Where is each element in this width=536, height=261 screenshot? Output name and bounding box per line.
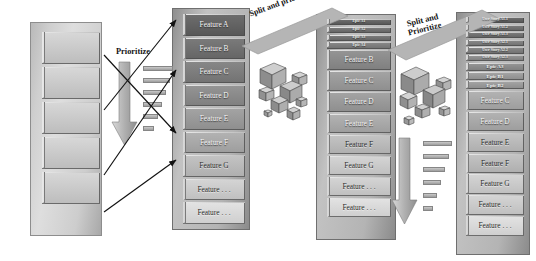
block-front-face: [42, 102, 100, 134]
backlog-item-unlabeled[interactable]: [42, 67, 100, 99]
backlog-item[interactable]: Feature . . .: [466, 216, 524, 236]
backlog-item-label: User Story A1.1: [482, 18, 508, 22]
block-left-edge: [466, 72, 469, 80]
priority-bar: [423, 193, 437, 198]
block-top-face: [466, 133, 524, 134]
block-left-edge: [466, 112, 469, 132]
backlog-item-label: Feature G: [344, 162, 373, 169]
backlog-item[interactable]: Feature C: [183, 61, 245, 83]
block-left-edge: [327, 71, 330, 91]
block-left-edge: [466, 32, 469, 38]
stack-epic-split-backlog: Epic A1Epic A2Epic A3Epic A4Feature BFea…: [316, 14, 396, 240]
block-top-face: [183, 108, 245, 109]
block-top-face: [183, 179, 245, 180]
backlog-item[interactable]: Feature F: [183, 132, 245, 154]
stack-blocks: Feature AFeature BFeature CFeature DFeat…: [172, 8, 250, 230]
backlog-item-label: Feature A: [200, 21, 229, 28]
block-left-edge: [466, 174, 469, 194]
backlog-item[interactable]: Feature . . .: [183, 202, 245, 224]
block-top-face: [466, 112, 524, 113]
block-left-edge: [327, 177, 330, 197]
backlog-item-label: Feature E: [345, 120, 374, 127]
backlog-item[interactable]: Feature . . .: [466, 195, 524, 215]
block-left-edge: [327, 156, 330, 176]
backlog-item[interactable]: Feature E: [327, 114, 391, 134]
backlog-item[interactable]: Epic B1: [466, 72, 524, 80]
block-left-edge: [466, 133, 469, 153]
block-top-face: [327, 177, 391, 178]
backlog-item-label: User Story A2.3: [482, 56, 508, 60]
backlog-item[interactable]: Feature G: [466, 174, 524, 194]
block-left-edge: [466, 17, 469, 23]
block-left-edge: [183, 202, 186, 224]
backlog-item[interactable]: Feature F: [466, 154, 524, 174]
block-front-face: [42, 137, 100, 169]
block-left-edge: [466, 55, 469, 61]
block-top-face: [466, 91, 524, 92]
backlog-item-label: Feature F: [481, 160, 509, 167]
block-left-edge: [42, 67, 45, 99]
block-top-face: [183, 132, 245, 133]
backlog-item-label: Feature F: [345, 141, 373, 148]
backlog-item-label: Feature . . .: [478, 201, 511, 208]
block-top-face: [327, 114, 391, 115]
block-left-edge: [183, 14, 186, 36]
backlog-item-label: Feature . . .: [342, 183, 375, 190]
backlog-item-unlabeled[interactable]: [42, 32, 100, 64]
block-top-face: [42, 172, 100, 173]
priority-bar: [423, 206, 433, 211]
backlog-item[interactable]: Epic B2: [466, 81, 524, 89]
block-left-edge: [466, 195, 469, 215]
backlog-item-unlabeled[interactable]: [42, 172, 100, 204]
backlog-item-label: Feature . . .: [197, 209, 230, 216]
block-top-face: [42, 67, 100, 68]
backlog-item-label: Epic A3: [353, 36, 366, 40]
block-top-face: [183, 14, 245, 15]
block-top-face: [327, 92, 391, 93]
backlog-item[interactable]: Feature C: [327, 71, 391, 91]
backlog-item-label: Feature C: [481, 97, 510, 104]
block-left-edge: [327, 114, 330, 134]
backlog-item-label: Feature . . .: [197, 186, 230, 193]
backlog-item[interactable]: Feature G: [327, 156, 391, 176]
backlog-item[interactable]: Feature . . .: [327, 177, 391, 197]
backlog-item[interactable]: Feature D: [327, 92, 391, 112]
backlog-item-label: Epic B2: [487, 83, 504, 88]
backlog-item[interactable]: Feature B: [327, 50, 391, 70]
backlog-item-unlabeled[interactable]: [42, 137, 100, 169]
priority-bar: [143, 90, 166, 95]
backlog-item-label: Feature E: [481, 139, 510, 146]
backlog-item[interactable]: Feature A: [183, 14, 245, 36]
arrow-4: [104, 160, 176, 212]
backlog-item-unlabeled[interactable]: [42, 102, 100, 134]
block-top-face: [183, 155, 245, 156]
backlog-item[interactable]: Feature D: [466, 112, 524, 132]
block-left-edge: [327, 198, 330, 218]
backlog-item[interactable]: Feature B: [183, 38, 245, 60]
stack-feature-backlog: Feature AFeature BFeature CFeature DFeat…: [172, 8, 250, 230]
backlog-item[interactable]: Feature . . .: [183, 179, 245, 201]
block-left-edge: [183, 132, 186, 154]
block-top-face: [42, 102, 100, 103]
priority-bar: [423, 154, 449, 159]
backlog-item-label: Feature . . .: [342, 204, 375, 211]
block-left-edge: [327, 92, 330, 112]
backlog-item[interactable]: Feature . . .: [327, 198, 391, 218]
backlog-item-label: Feature . . .: [478, 222, 511, 229]
block-left-edge: [42, 172, 45, 204]
block-top-face: [466, 154, 524, 155]
priority-bar: [423, 167, 445, 172]
backlog-item[interactable]: Epic A3: [466, 63, 524, 71]
backlog-item[interactable]: Feature F: [327, 135, 391, 155]
block-left-edge: [466, 216, 469, 236]
backlog-item[interactable]: Feature D: [183, 85, 245, 107]
backlog-item-label: Feature C: [200, 68, 229, 75]
block-left-edge: [327, 135, 330, 155]
backlog-item[interactable]: Feature C: [466, 91, 524, 111]
priority-bar: [423, 180, 441, 185]
priority-bar: [143, 126, 154, 131]
backlog-item[interactable]: Feature E: [183, 108, 245, 130]
backlog-item[interactable]: Feature E: [466, 133, 524, 153]
backlog-item[interactable]: Feature G: [183, 155, 245, 177]
block-left-edge: [466, 81, 469, 89]
